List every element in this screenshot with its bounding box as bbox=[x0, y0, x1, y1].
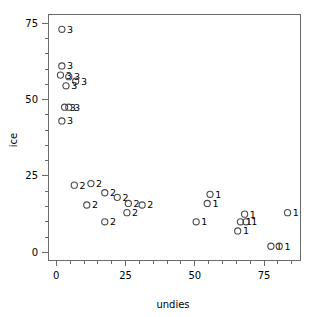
data-point-marker bbox=[57, 72, 63, 78]
data-point: 3 bbox=[63, 80, 77, 91]
data-point-label: 3 bbox=[71, 80, 77, 91]
data-point-label: 3 bbox=[74, 102, 80, 113]
data-point: 3 bbox=[59, 24, 73, 35]
x-tick-label: 75 bbox=[258, 270, 271, 281]
data-point-marker bbox=[102, 190, 108, 196]
data-point-label: 1 bbox=[284, 241, 290, 252]
data-point-marker bbox=[139, 202, 145, 208]
data-point-marker bbox=[204, 200, 210, 206]
data-point-label: 1 bbox=[251, 216, 257, 227]
data-point-label: 2 bbox=[110, 187, 116, 198]
data-point: 2 bbox=[88, 178, 102, 189]
data-point-label: 1 bbox=[212, 198, 218, 209]
data-point-marker bbox=[268, 243, 274, 249]
data-point-marker bbox=[59, 26, 65, 32]
data-point-label: 1 bbox=[293, 207, 299, 218]
data-point-label: 1 bbox=[201, 216, 207, 227]
data-point: 1 bbox=[204, 198, 218, 209]
data-point-marker bbox=[71, 182, 77, 188]
data-point: 2 bbox=[71, 180, 85, 191]
data-point-label: 2 bbox=[122, 192, 128, 203]
data-point-marker bbox=[88, 181, 94, 187]
data-point-label: 1 bbox=[276, 241, 282, 252]
data-point-label: 3 bbox=[81, 76, 87, 87]
data-point: 1 bbox=[268, 241, 282, 252]
data-point: 1 bbox=[284, 207, 298, 218]
x-tick-label: 0 bbox=[53, 270, 59, 281]
x-axis-ticks: 0255075 bbox=[53, 260, 292, 281]
x-tick-label: 50 bbox=[188, 270, 201, 281]
x-axis-title: undies bbox=[156, 299, 189, 310]
data-point-label: 2 bbox=[80, 180, 86, 191]
data-point-label: 2 bbox=[92, 199, 98, 210]
y-tick-label: 25 bbox=[25, 170, 38, 181]
data-points-layer: 3333333332222222221111111111 bbox=[57, 24, 298, 252]
data-point-marker bbox=[102, 219, 108, 225]
data-point-label: 2 bbox=[96, 178, 102, 189]
data-point-marker bbox=[59, 118, 65, 124]
y-tick-label: 50 bbox=[25, 94, 38, 105]
data-point: 2 bbox=[139, 199, 153, 210]
data-point-label: 1 bbox=[243, 225, 249, 236]
plot-frame bbox=[48, 14, 300, 260]
data-point: 1 bbox=[193, 216, 207, 227]
data-point: 2 bbox=[102, 216, 116, 227]
plot-svg: 0255075 0255075 333333333222222222111111… bbox=[0, 0, 315, 317]
data-point: 1 bbox=[235, 225, 249, 236]
data-point-marker bbox=[63, 83, 69, 89]
y-tick-label: 75 bbox=[25, 18, 38, 29]
data-point-label: 2 bbox=[147, 199, 153, 210]
data-point: 2 bbox=[124, 207, 138, 218]
data-point-label: 3 bbox=[67, 24, 73, 35]
data-point-marker bbox=[193, 219, 199, 225]
y-axis-title: ice bbox=[8, 133, 19, 147]
y-axis-ticks: 0255075 bbox=[25, 18, 48, 258]
data-point-marker bbox=[84, 202, 90, 208]
data-point-label: 2 bbox=[132, 207, 138, 218]
scatter-plot-figure: 0255075 0255075 333333333222222222111111… bbox=[0, 0, 315, 317]
data-point-marker bbox=[284, 210, 290, 216]
data-point: 3 bbox=[59, 115, 73, 126]
y-tick-label: 0 bbox=[32, 247, 38, 258]
data-point-marker bbox=[235, 228, 241, 234]
data-point: 2 bbox=[84, 199, 98, 210]
data-point-marker bbox=[207, 191, 213, 197]
plot-border bbox=[48, 14, 300, 260]
x-tick-label: 25 bbox=[119, 270, 132, 281]
data-point-label: 2 bbox=[110, 216, 116, 227]
data-point: 3 bbox=[57, 70, 71, 81]
data-point-label: 3 bbox=[67, 115, 73, 126]
data-point-marker bbox=[124, 210, 130, 216]
data-point-marker bbox=[59, 63, 65, 69]
